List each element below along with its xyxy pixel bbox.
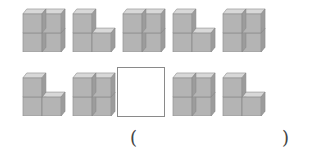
cube-square-shape [122,8,166,52]
cube-square-shape [72,72,116,116]
answer-open-paren: ( [130,128,137,148]
cube-square-shape [22,8,66,52]
cube-l-shape [222,72,266,116]
cube-l-shape [22,72,66,116]
blank-answer-box[interactable] [117,67,165,117]
cube-l-shape [172,8,216,52]
cube-l-shape [72,8,116,52]
cube-square-shape [172,72,216,116]
answer-close-paren: ) [282,128,289,148]
cube-square-shape [222,8,266,52]
